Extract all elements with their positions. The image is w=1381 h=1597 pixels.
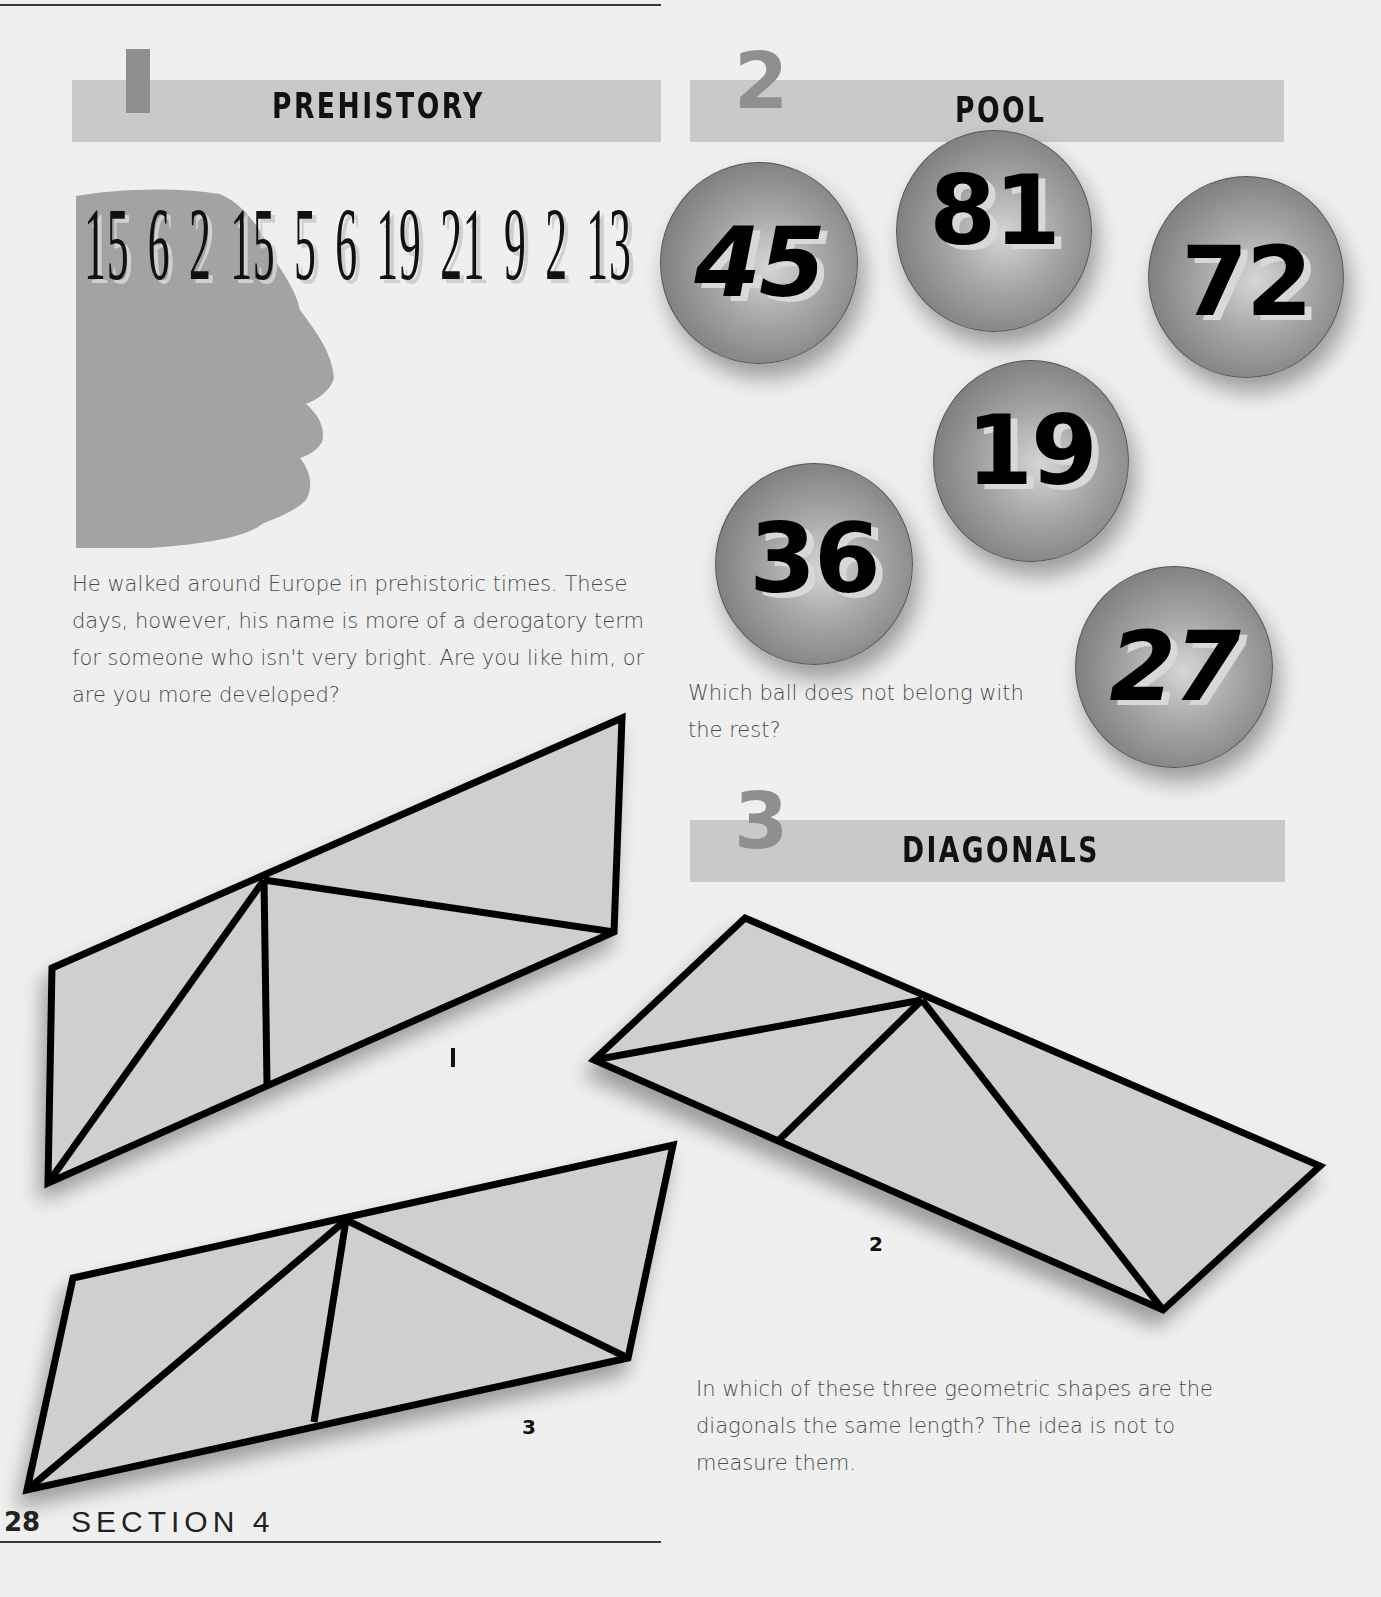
page-number: 28 [4, 1507, 40, 1537]
puzzle-3-question: In which of these three geometric shapes… [696, 1371, 1296, 1482]
shape-1 [48, 718, 622, 1183]
shape-3-label: 3 [522, 1415, 536, 1439]
shape-2-label: 2 [869, 1232, 883, 1256]
bottom-rule [0, 1541, 661, 1543]
shape-1-label [451, 1048, 455, 1067]
question-line: In which of these three geometric shapes… [696, 1371, 1296, 1408]
shape-2 [594, 918, 1320, 1310]
question-line: diagonals the same length? The idea is n… [696, 1408, 1296, 1445]
question-line: measure them. [696, 1445, 1296, 1482]
geometric-shapes [0, 0, 1381, 1597]
shape-3 [27, 1145, 673, 1490]
section-label: SECTION 4 [71, 1505, 274, 1539]
